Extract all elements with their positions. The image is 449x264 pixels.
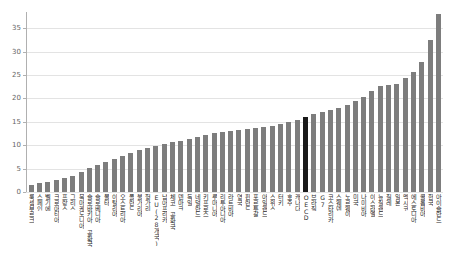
bar[interactable] [95,165,100,192]
bar-slot[interactable] [102,12,110,192]
bar[interactable] [120,156,125,192]
bar[interactable] [195,137,200,192]
bar-slot[interactable] [368,12,376,192]
bar-slot[interactable] [243,12,251,192]
bar-slot[interactable] [285,12,293,192]
bar-slot[interactable] [401,12,409,192]
bar[interactable] [112,159,117,192]
bar[interactable] [220,132,225,192]
bar[interactable] [145,148,150,192]
bar-slot[interactable] [85,12,93,192]
bar-slot[interactable] [360,12,368,192]
bar-slot[interactable] [351,12,359,192]
bar-slot[interactable] [376,12,384,192]
bar-slot[interactable] [60,12,68,192]
bar-slot[interactable] [160,12,168,192]
bar-slot[interactable] [193,12,201,192]
bar[interactable] [378,86,383,192]
bar-slot[interactable] [94,12,102,192]
bar[interactable] [228,131,233,192]
bar[interactable] [162,144,167,192]
bar-slot[interactable] [343,12,351,192]
bar-slot[interactable] [52,12,60,192]
bar[interactable] [153,146,158,192]
bar[interactable] [187,139,192,192]
bar[interactable] [45,182,50,192]
bar[interactable] [236,130,241,192]
bar[interactable] [203,135,208,192]
bar-slot[interactable] [268,12,276,192]
bar-slot[interactable] [276,12,284,192]
bar[interactable] [403,78,408,192]
bar-slot[interactable] [44,12,52,192]
bar-slot[interactable] [135,12,143,192]
bar[interactable] [62,178,67,192]
bar-slot[interactable] [235,12,243,192]
bar-slot[interactable] [152,12,160,192]
bar[interactable] [170,142,175,192]
bar-slot[interactable] [69,12,77,192]
bar-slot[interactable] [110,12,118,192]
bar[interactable] [37,183,42,192]
bar-slot[interactable] [210,12,218,192]
bar-slot[interactable] [168,12,176,192]
bar[interactable] [178,141,183,192]
bar[interactable] [79,172,84,192]
bar[interactable] [54,180,59,192]
bar[interactable] [70,176,75,192]
bar-slot[interactable] [318,12,326,192]
bar[interactable] [311,114,316,192]
bar[interactable] [411,72,416,192]
bar-slot[interactable] [335,12,343,192]
bar-slot[interactable] [185,12,193,192]
bar[interactable] [295,120,300,192]
bar[interactable] [353,101,358,192]
bar-slot[interactable] [35,12,43,192]
bar-slot[interactable] [118,12,126,192]
bar-slot[interactable] [227,12,235,192]
bar-slot[interactable] [218,12,226,192]
bar[interactable] [394,84,399,192]
bar-slot[interactable] [177,12,185,192]
bar-slot[interactable] [409,12,417,192]
bar[interactable] [369,91,374,192]
bar-slot[interactable] [293,12,301,192]
bar[interactable] [253,128,258,192]
bar-slot[interactable] [251,12,259,192]
bar-slot[interactable] [260,12,268,192]
bar-slot[interactable] [434,12,442,192]
bar[interactable] [137,150,142,192]
bar-slot[interactable] [143,12,151,192]
bar-slot[interactable] [418,12,426,192]
bar[interactable] [103,162,108,192]
bar[interactable] [270,126,275,192]
bar-slot[interactable] [426,12,434,192]
bar[interactable] [245,129,250,192]
bar[interactable] [212,133,217,192]
bar-slot[interactable] [326,12,334,192]
bar-slot[interactable] [127,12,135,192]
bar[interactable] [286,122,291,192]
bar[interactable] [428,40,433,192]
bar-slot[interactable] [77,12,85,192]
bar[interactable] [345,105,350,192]
bar[interactable] [320,112,325,192]
bar-slot[interactable] [202,12,210,192]
bar-slot[interactable] [310,12,318,192]
bar[interactable] [419,62,424,192]
bar-slot[interactable] [384,12,392,192]
bar[interactable] [128,153,133,192]
bar[interactable] [278,124,283,192]
bar[interactable] [29,185,34,192]
bar-slot[interactable] [301,12,309,192]
bar[interactable] [361,97,366,192]
bar[interactable] [303,117,308,192]
bar[interactable] [87,168,92,192]
bar[interactable] [261,127,266,192]
bar-slot[interactable] [393,12,401,192]
bar-slot[interactable] [27,12,35,192]
bar[interactable] [386,85,391,192]
bar[interactable] [436,14,441,192]
bar[interactable] [328,110,333,192]
bar[interactable] [336,108,341,192]
